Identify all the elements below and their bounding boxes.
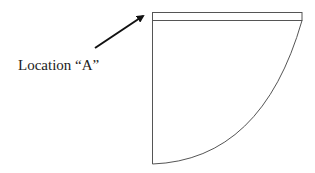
diagram-canvas: Location “A” [0,0,315,173]
top-band [153,13,303,21]
quarter-sector [153,21,303,165]
location-label: Location “A” [18,57,99,73]
pointer-arrow [95,16,143,48]
